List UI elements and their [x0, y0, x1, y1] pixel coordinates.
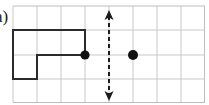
- figure-canvas: a): [0, 0, 209, 105]
- image-point: [128, 50, 138, 60]
- pre-image-point: [80, 50, 89, 59]
- geometry-figure: [0, 0, 209, 105]
